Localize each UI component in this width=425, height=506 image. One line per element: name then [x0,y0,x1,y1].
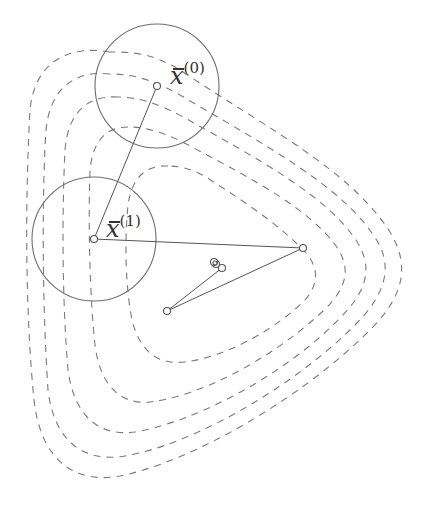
iterate-point-7 [213,261,217,265]
label-x0: x(0) [170,64,205,88]
diagram-canvas [0,0,425,506]
iterate-points [91,83,307,315]
iterate-point-0 [154,83,161,90]
label-x0-sup: (0) [184,59,205,77]
iterate-point-3 [164,308,171,315]
label-x1-sup: (1) [120,212,141,230]
iterate-point-2 [300,245,307,252]
label-x1-bar [109,221,120,223]
label-x1: x(1) [106,217,141,241]
iterate-point-1 [91,236,98,243]
label-x0-bar [173,68,184,70]
iterate-path [94,86,303,311]
label-x1-base: x [106,215,120,243]
label-x0-base: x [170,62,184,90]
